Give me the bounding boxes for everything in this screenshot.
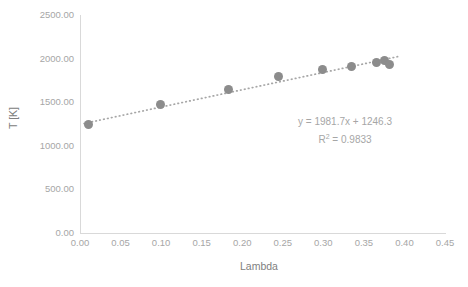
x-axis-title: Lambda: [0, 260, 468, 272]
chart-container: 0.00500.001000.001500.002000.002500.00 0…: [0, 0, 468, 287]
x-tick-label: 0.30: [303, 238, 343, 248]
x-tick-label: 0.15: [182, 238, 222, 248]
x-tick-label: 0.20: [222, 238, 262, 248]
y-tick-label: 500.00: [45, 184, 74, 194]
equation-text: y = 1981.7x + 1246.3: [262, 114, 428, 129]
x-tick-label: 0.10: [141, 238, 181, 248]
x-tick-label: 0.35: [344, 238, 384, 248]
x-axis-line: [80, 233, 446, 234]
y-tick-label: 1000.00: [40, 141, 74, 151]
r-squared-text: R2 = 0.9833: [262, 129, 428, 147]
x-tick-label: 0.25: [263, 238, 303, 248]
r-squared-prefix: R: [318, 134, 325, 145]
y-tick-label: 1500.00: [40, 97, 74, 107]
y-tick-label: 2500.00: [40, 10, 74, 20]
data-point: [318, 65, 327, 74]
x-tick-label: 0.45: [425, 238, 465, 248]
r-squared-value: = 0.9833: [330, 134, 372, 145]
data-point: [274, 72, 283, 81]
x-tick-label: 0.05: [101, 238, 141, 248]
y-axis-title: T [K]: [7, 88, 19, 148]
x-tick-label: 0.00: [60, 238, 100, 248]
data-point: [84, 120, 93, 129]
y-tick-label: 2000.00: [40, 54, 74, 64]
x-tick-label: 0.40: [384, 238, 424, 248]
trendline-equation-annotation: y = 1981.7x + 1246.3 R2 = 0.9833: [262, 114, 428, 147]
